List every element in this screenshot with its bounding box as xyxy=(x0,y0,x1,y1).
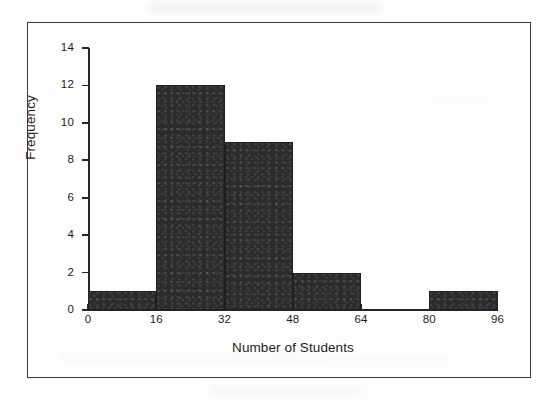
y-tick-label-wrap: 12 xyxy=(46,79,74,91)
y-tick-mark xyxy=(82,85,89,87)
y-tick-label: 12 xyxy=(48,79,74,91)
x-tick-label-wrap: 80 xyxy=(409,314,449,326)
y-tick-label-wrap: 2 xyxy=(46,267,74,279)
x-tick-label: 80 xyxy=(409,314,449,326)
histogram-bar xyxy=(293,273,361,310)
histogram-bar xyxy=(88,291,156,310)
y-tick-mark xyxy=(82,272,89,274)
y-tick-label: 6 xyxy=(48,192,74,204)
x-tick-label: 0 xyxy=(68,314,108,326)
x-tick-label: 96 xyxy=(478,314,518,326)
x-tick-label: 32 xyxy=(205,314,245,326)
y-tick-label-wrap: 8 xyxy=(46,154,74,166)
histogram-bar xyxy=(156,85,224,310)
x-tick-label-wrap: 48 xyxy=(273,314,313,326)
y-tick-label: 2 xyxy=(48,267,74,279)
y-tick-mark xyxy=(82,234,89,236)
y-tick-label: 4 xyxy=(48,229,74,241)
y-tick-label: 10 xyxy=(48,117,74,129)
y-tick-label-wrap: 10 xyxy=(46,117,74,129)
y-tick-mark xyxy=(82,122,89,124)
x-tick-label: 64 xyxy=(341,314,381,326)
x-tick-label: 16 xyxy=(136,314,176,326)
histogram-bar xyxy=(429,291,497,310)
x-tick-label-wrap: 0 xyxy=(68,314,108,326)
x-tick-label-wrap: 32 xyxy=(205,314,245,326)
y-tick-mark xyxy=(82,197,89,199)
x-tick-label-wrap: 96 xyxy=(478,314,518,326)
y-tick-mark xyxy=(82,47,89,49)
histogram-bar xyxy=(225,142,293,310)
y-axis-title: Frequency xyxy=(23,68,38,188)
y-tick-label: 8 xyxy=(48,154,74,166)
x-tick-label: 48 xyxy=(273,314,313,326)
y-tick-label-wrap: 4 xyxy=(46,229,74,241)
histogram-plot: 02468101214 0163248648096 Frequency Numb… xyxy=(0,0,552,407)
y-tick-label-wrap: 14 xyxy=(46,42,74,54)
y-tick-label-wrap: 6 xyxy=(46,192,74,204)
x-tick-label-wrap: 16 xyxy=(136,314,176,326)
x-axis-title: Number of Students xyxy=(88,340,498,355)
y-tick-mark xyxy=(82,159,89,161)
x-tick-label-wrap: 64 xyxy=(341,314,381,326)
y-tick-label: 14 xyxy=(48,42,74,54)
